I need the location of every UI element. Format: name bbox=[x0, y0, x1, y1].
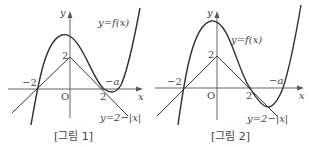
figure-2: y y=f(x) 2 −2 O 2 −a x y=2−|x| [그림 2] bbox=[155, 0, 309, 147]
figure-2-graph bbox=[155, 0, 309, 147]
line-label: y=2−|x| bbox=[100, 112, 141, 123]
x-axis-label: x bbox=[138, 91, 144, 102]
tick-x-2: 2 bbox=[100, 91, 106, 102]
tick-y-2: 2 bbox=[62, 50, 68, 61]
figure-caption: [그림 1] bbox=[54, 127, 93, 143]
root-label: −a bbox=[105, 76, 119, 87]
figure-caption: [그림 2] bbox=[211, 127, 250, 143]
figure-1-graph bbox=[0, 0, 155, 147]
curve-label: y=f(x) bbox=[98, 17, 129, 28]
line-label: y=2−|x| bbox=[247, 113, 288, 124]
tick-neg2: −2 bbox=[167, 76, 182, 87]
y-axis-label: y bbox=[60, 7, 66, 18]
tick-x-2: 2 bbox=[246, 90, 252, 101]
figure-1: y y=f(x) 2 −2 O 2 −a x y=2−|x| [그림 1] bbox=[0, 0, 155, 147]
x-axis-label: x bbox=[299, 90, 305, 101]
origin-label: O bbox=[207, 90, 215, 101]
curve-label: y=f(x) bbox=[231, 34, 262, 45]
tick-neg2: −2 bbox=[22, 77, 37, 88]
tick-y-2: 2 bbox=[208, 49, 214, 60]
origin-label: O bbox=[61, 91, 69, 102]
root-label: −a bbox=[269, 75, 283, 86]
y-axis-label: y bbox=[207, 7, 213, 18]
